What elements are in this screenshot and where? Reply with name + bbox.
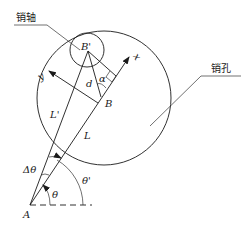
pin-hole-geometry-diagram: 销轴 销孔 B' B A d α x y L' L Δθ θ θ' [0,0,252,232]
delta-theta-arc-small [41,174,49,175]
label-pin-shaft: 销轴 [16,11,36,23]
label-delta-theta: Δθ [22,164,36,175]
label-theta-prime: θ' [82,175,91,186]
label-L: L [83,130,91,141]
theta-arc [43,185,50,205]
label-B: B [104,98,112,109]
label-L-prime: L' [49,109,59,120]
label-x-axis: x [131,51,143,62]
pin-hole-leader-line [150,76,241,126]
label-alpha: α [99,73,106,84]
label-y-axis: y [34,70,46,83]
theta-prime-arc [57,160,83,205]
label-A: A [22,209,30,220]
delta-theta-arc [49,156,61,158]
label-pin-hole: 销孔 [211,62,231,74]
right-angle-marker [106,71,116,82]
label-d: d [86,78,92,89]
label-B-prime: B' [80,41,91,52]
label-theta: θ [52,189,58,200]
